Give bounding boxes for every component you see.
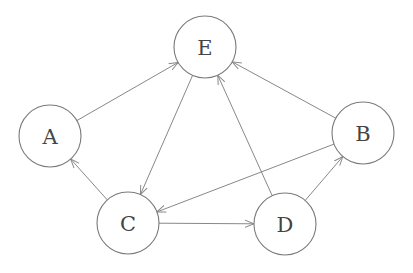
node-d-label: D: [277, 213, 294, 237]
edge-e-to-c: [140, 75, 192, 194]
node-b: B: [332, 102, 394, 164]
node-d: D: [254, 193, 316, 255]
edge-b-to-e: [232, 62, 336, 118]
edge-c-to-a: [71, 159, 108, 200]
node-e: E: [174, 16, 236, 78]
directed-graph: E A B C D: [0, 0, 413, 273]
nodes-layer: E A B C D: [19, 16, 394, 255]
node-a-label: A: [41, 125, 58, 149]
node-e-label: E: [197, 36, 212, 60]
edge-b-to-c: [157, 144, 334, 212]
node-a: A: [19, 105, 81, 167]
edge-d-to-b: [305, 157, 343, 201]
edge-a-to-e: [77, 62, 178, 120]
edge-c-to-d: [159, 223, 254, 224]
node-c: C: [97, 192, 159, 254]
node-c-label: C: [120, 212, 136, 236]
node-b-label: B: [355, 122, 370, 146]
